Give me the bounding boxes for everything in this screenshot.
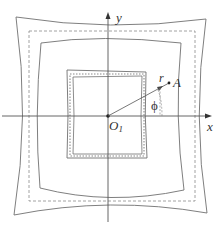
origin-label: O1 xyxy=(109,118,123,134)
y-axis-label: y xyxy=(114,10,122,25)
origin-label-subscript: 1 xyxy=(118,124,123,134)
x-axis-label: x xyxy=(206,119,213,134)
diagram-canvas: y x O1 r A ϕ xyxy=(0,0,222,225)
radius-label: r xyxy=(159,71,164,85)
point-a xyxy=(168,82,171,85)
x-axis-arrow-icon xyxy=(205,114,212,119)
inner-solid-contour xyxy=(67,70,147,158)
y-axis-arrow-icon xyxy=(106,12,111,19)
angle-label: ϕ xyxy=(151,98,158,113)
point-a-label: A xyxy=(172,75,181,90)
